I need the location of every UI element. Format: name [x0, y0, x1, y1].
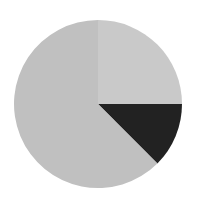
pie-slice-1 [98, 20, 182, 104]
pie-chart [0, 0, 205, 207]
